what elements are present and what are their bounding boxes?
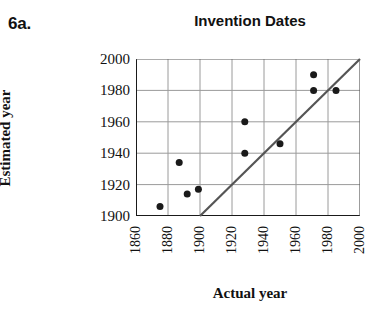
data-point [310,71,317,78]
scatter-points-layer [136,59,360,216]
data-point [195,186,202,193]
data-point [184,191,191,198]
x-tick-label: 1960 [289,226,303,254]
y-tick-label: 1900 [100,209,130,224]
y-axis-title: Estimated year [0,58,15,218]
x-axis-title: Actual year [136,285,364,302]
problem-number-label: 6a. [8,14,31,34]
x-tick-label: 1860 [129,226,143,254]
x-tick-label: 1920 [225,226,239,254]
y-tick-label: 1980 [100,83,130,98]
y-tick-label: 1940 [100,146,130,161]
chart-figure: 6a. Invention Dates Estimated year Actua… [0,0,384,314]
x-tick-label: 1940 [257,226,271,254]
x-tick-label: 1980 [321,226,335,254]
data-point [157,203,164,210]
chart-title: Invention Dates [136,12,364,29]
plot-area: 190019201940196019802000 186018801900192… [136,59,360,216]
data-point [310,87,317,94]
data-point [241,150,248,157]
x-tick-label: 1880 [161,226,175,254]
y-tick-label: 2000 [100,52,130,67]
scatter-points [157,71,340,210]
data-point [333,87,340,94]
data-point [176,159,183,166]
y-tick-label: 1960 [100,114,130,129]
data-point [277,140,284,147]
y-tick-label: 1920 [100,177,130,192]
x-tick-label: 2000 [353,226,367,254]
x-tick-label: 1900 [193,226,207,254]
data-point [241,118,248,125]
